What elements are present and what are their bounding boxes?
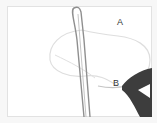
- rope-loop: [72, 7, 90, 117]
- label-b: B: [113, 79, 119, 88]
- label-a: A: [117, 18, 123, 27]
- traced-line: [55, 55, 95, 78]
- rope-illustration: [0, 0, 157, 123]
- knot-photo: A B: [0, 0, 157, 123]
